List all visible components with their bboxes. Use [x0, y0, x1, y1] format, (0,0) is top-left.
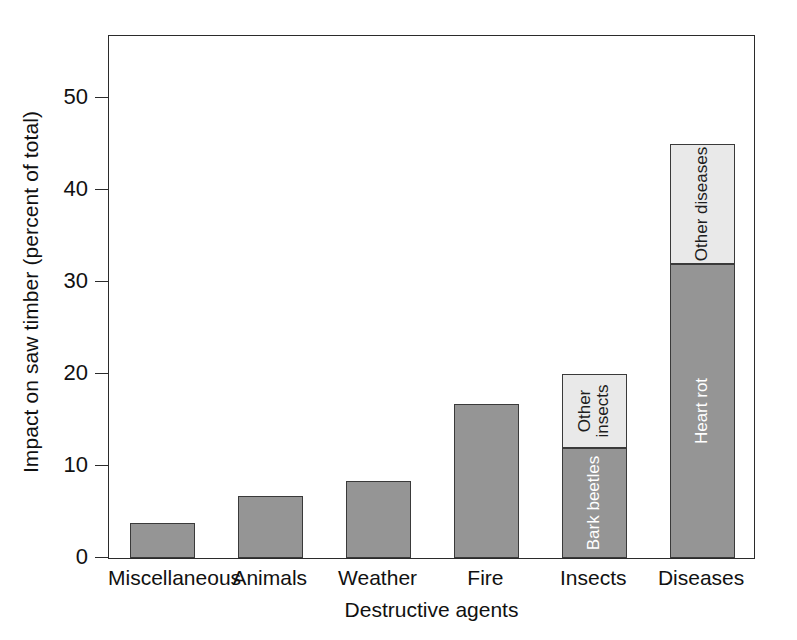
- x-axis-tick-label-diseases: Diseases: [647, 566, 755, 590]
- x-axis-tick-label-fire: Fire: [432, 566, 540, 590]
- bar-segment[interactable]: Other diseases: [670, 144, 735, 264]
- y-axis-tick: 10: [95, 465, 109, 466]
- bar-segment[interactable]: Heart rot: [670, 264, 735, 558]
- bar-segment[interactable]: Other insects: [562, 374, 627, 448]
- bar-segment-label: Other diseases: [693, 147, 711, 261]
- bar-fire[interactable]: [454, 404, 519, 558]
- y-axis-tick: 30: [95, 281, 109, 282]
- bar-segment-label: Heart rot: [693, 378, 711, 444]
- bar-weather[interactable]: [346, 481, 411, 558]
- y-axis-title: Impact on saw timber (percent of total): [14, 12, 48, 572]
- bar-segment[interactable]: [238, 496, 303, 559]
- y-axis-tick-label: 20: [64, 360, 88, 386]
- y-axis-tick-label: 40: [64, 176, 88, 202]
- y-axis-tick-label: 0: [76, 544, 88, 570]
- bar-segment[interactable]: [130, 523, 195, 558]
- y-axis-tick-label: 30: [64, 268, 88, 294]
- bar-segment[interactable]: [454, 404, 519, 558]
- x-axis-tick-label-miscellaneous: Miscellaneous: [108, 566, 216, 590]
- chart-figure: Impact on saw timber (percent of total) …: [0, 0, 797, 640]
- bar-segment-label: Bark beetles: [585, 456, 603, 551]
- bar-miscellaneous[interactable]: [130, 523, 195, 558]
- x-axis-tick-label-animals: Animals: [216, 566, 324, 590]
- x-axis-title: Destructive agents: [108, 598, 755, 622]
- x-axis-tick-label-weather: Weather: [324, 566, 432, 590]
- bar-insects[interactable]: Bark beetlesOther insects: [562, 374, 627, 558]
- y-axis-tick: 40: [95, 189, 109, 190]
- bar-animals[interactable]: [238, 496, 303, 559]
- bar-segment-label: Other insects: [576, 374, 612, 448]
- x-axis-tick-label-insects: Insects: [539, 566, 647, 590]
- y-axis-tick: 20: [95, 373, 109, 374]
- y-axis-tick: 50: [95, 97, 109, 98]
- plot-area: 01020304050 Bark beetlesOther insectsHea…: [108, 35, 755, 559]
- y-axis-tick-label: 10: [64, 452, 88, 478]
- bar-segment[interactable]: Bark beetles: [562, 448, 627, 558]
- y-axis-tick-label: 50: [64, 84, 88, 110]
- bar-segment[interactable]: [346, 481, 411, 558]
- bar-diseases[interactable]: Heart rotOther diseases: [670, 144, 735, 558]
- y-axis-tick: 0: [95, 557, 109, 558]
